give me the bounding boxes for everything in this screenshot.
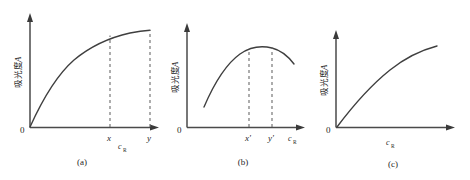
panel-a-y-axis-label-sym: A bbox=[13, 56, 23, 63]
three-panel-absorbance-figure: 0 x y c R 吸光度 A (a) bbox=[0, 0, 470, 180]
panel-c-curve bbox=[337, 46, 437, 127]
panel-a-tick-label-y: y bbox=[146, 133, 151, 143]
panel-b-y-axis-label-sym: A bbox=[170, 61, 180, 68]
panel-b-tick-label-x-prime: x' bbox=[244, 133, 252, 143]
panel-c-x-axis-label-sub: R bbox=[391, 143, 395, 149]
panel-b-x-axis-label-main: c bbox=[288, 134, 292, 143]
panel-a-x-axis-label: c R bbox=[118, 142, 127, 153]
panel-c-y-axis-arrow bbox=[333, 30, 339, 39]
panel-b-y-axis-arrow bbox=[184, 23, 190, 32]
panel-c-y-axis-label-cn: 吸光度 bbox=[319, 69, 329, 96]
panel-b-tick-label-y-prime: y' bbox=[267, 133, 275, 143]
panel-a-x-axis-arrow bbox=[150, 125, 159, 131]
panel-a-x-axis-label-sub: R bbox=[123, 147, 127, 153]
panel-b-caption: (b) bbox=[238, 157, 249, 167]
panel-c-x-axis-label: c R bbox=[386, 138, 395, 149]
figure-container: 0 x y c R 吸光度 A (a) bbox=[0, 0, 470, 180]
panel-b-origin-label: 0 bbox=[177, 125, 182, 135]
panel-a-tick-label-x: x bbox=[106, 133, 111, 143]
panel-b-y-axis-label: 吸光度 A bbox=[170, 61, 180, 93]
panel-b-y-axis-label-cn: 吸光度 bbox=[170, 66, 180, 93]
panel-c-x-axis-arrow bbox=[446, 125, 455, 131]
panel-a: 0 x y c R 吸光度 A (a) bbox=[13, 13, 159, 167]
panel-c: 0 c R 吸光度 A (c) bbox=[319, 30, 455, 169]
panel-c-y-axis-label: 吸光度 A bbox=[319, 64, 329, 96]
panel-c-x-axis-label-main: c bbox=[386, 138, 390, 147]
panel-a-y-axis-label-cn: 吸光度 bbox=[13, 61, 23, 88]
panel-a-caption: (a) bbox=[77, 157, 87, 167]
panel-a-curve bbox=[30, 30, 150, 127]
panel-b: 0 x' y' c R 吸光度 A (b) bbox=[170, 23, 305, 167]
panel-c-caption: (c) bbox=[388, 159, 398, 169]
panel-a-y-axis-arrow bbox=[27, 13, 33, 22]
panel-b-x-axis-label-sub: R bbox=[293, 139, 297, 145]
panel-a-x-axis-label-main: c bbox=[118, 142, 122, 151]
panel-b-x-axis-arrow bbox=[296, 125, 305, 131]
panel-c-origin-label: 0 bbox=[326, 125, 331, 135]
panel-c-y-axis-label-sym: A bbox=[319, 64, 329, 71]
panel-b-x-axis-label: c R bbox=[288, 134, 297, 145]
panel-a-y-axis-label: 吸光度 A bbox=[13, 56, 23, 88]
panel-a-origin-label: 0 bbox=[20, 125, 25, 135]
